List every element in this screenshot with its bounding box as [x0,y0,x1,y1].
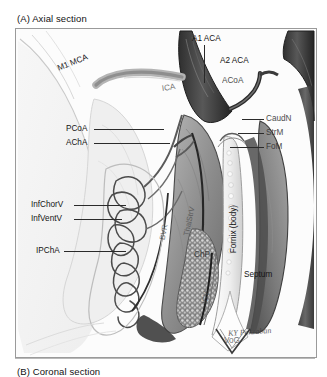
label-a2-aca: A2 ACA [220,57,249,65]
panel-b-frame-top [15,358,315,359]
label-pcoa: PCoA [66,125,87,133]
label-caudn: CaudN [266,115,292,123]
leader-ipcha [64,251,126,252]
label-a1-aca: A1 ACA [192,35,221,43]
leader-strm [238,133,264,134]
leader-caudn [242,119,264,120]
leader-fom [230,147,264,148]
label-fornix-body: Fornix (body) [230,205,238,253]
panel-a-caption: (A) Axial section [17,13,87,24]
label-infventv: InfVentV [31,215,62,223]
leader-infventv [74,219,122,220]
label-ipcha: IPChA [36,247,60,255]
label-acoa: ACoA [222,77,243,85]
label-septum: Septum [244,271,272,279]
label-vog: VoG [224,337,240,345]
leader-acha [94,143,170,144]
leader-pcoa [94,129,164,130]
illustration-frame: A1 ACA A2 ACA ACoA M1 MCA ICA PCoA AChA … [15,28,317,358]
leader-a1-aca [204,45,205,83]
label-strm: StrM [266,129,283,137]
axial-section-drawing [16,29,316,357]
label-infchorv: InfChorV [31,201,63,209]
label-acha: AChA [66,139,87,147]
panel-b-caption: (B) Coronal section [17,366,100,377]
label-chp: ChP [194,251,210,259]
leader-infchorv [74,205,126,206]
label-fom: FoM [266,143,282,151]
illustration-artwork [16,29,316,357]
